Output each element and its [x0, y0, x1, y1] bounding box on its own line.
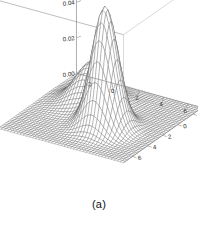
surface-plot-svg: 0.000.020.040.06-20246-20246	[0, 0, 198, 200]
figure-caption: (a)	[0, 198, 198, 210]
surface-plot-area: 0.000.020.040.06-20246-20246	[0, 0, 198, 200]
figure-panel: 0.000.020.040.06-20246-20246 (a)	[0, 0, 198, 227]
svg-text:0.04: 0.04	[62, 0, 75, 7]
svg-text:2: 2	[168, 132, 173, 139]
svg-text:4: 4	[152, 143, 157, 150]
svg-text:0.02: 0.02	[62, 34, 75, 43]
svg-text:6: 6	[137, 154, 142, 161]
svg-text:0: 0	[183, 122, 188, 129]
